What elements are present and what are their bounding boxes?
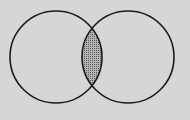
venn-diagram <box>0 0 190 120</box>
